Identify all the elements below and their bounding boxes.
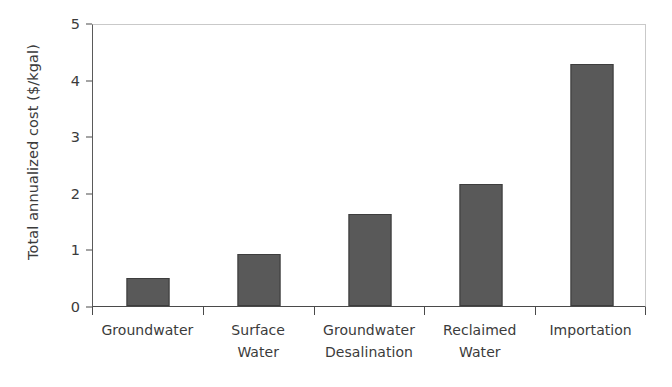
bar-slot [425, 25, 536, 306]
x-axis-label-line: Reclaimed [424, 319, 535, 341]
y-tick-label: 5 [71, 16, 80, 32]
y-tick-label: 4 [71, 73, 80, 89]
bar[interactable] [238, 254, 281, 306]
y-tick-label: 3 [71, 129, 80, 145]
x-tick-mark [535, 307, 536, 315]
bar[interactable] [127, 278, 170, 306]
x-tick-mark [645, 307, 646, 315]
x-tick-mark [203, 307, 204, 315]
x-axis-label-line: Groundwater [92, 319, 203, 341]
bar-slot [204, 25, 315, 306]
x-axis-label: GroundwaterDesalination [314, 319, 425, 363]
bars-layer [93, 25, 645, 306]
x-axis-ticks [92, 307, 646, 316]
bar-slot [93, 25, 204, 306]
x-axis-label: Groundwater [92, 319, 203, 341]
y-axis-ticks: 012345 [0, 24, 92, 307]
x-tick-mark [424, 307, 425, 315]
y-tick-label: 0 [71, 299, 80, 315]
x-axis-labels: GroundwaterSurfaceWaterGroundwaterDesali… [92, 319, 646, 379]
x-axis-label: Importation [535, 319, 646, 341]
bar[interactable] [570, 64, 613, 306]
x-tick-mark [314, 307, 315, 315]
x-axis-label-line: Desalination [314, 341, 425, 363]
bar[interactable] [348, 214, 391, 306]
x-axis-label-line: Groundwater [314, 319, 425, 341]
bar[interactable] [459, 184, 502, 306]
x-tick-mark [92, 307, 93, 315]
x-axis-label-line: Surface [203, 319, 314, 341]
y-tick-label: 1 [71, 242, 80, 258]
y-tick-label: 2 [71, 186, 80, 202]
x-axis-label-line: Water [424, 341, 535, 363]
bar-chart: Total annualized cost ($/kgal) 012345 Gr… [0, 0, 672, 387]
bar-slot [536, 25, 647, 306]
x-axis-label-line: Importation [535, 319, 646, 341]
x-axis-label: SurfaceWater [203, 319, 314, 363]
x-axis-label-line: Water [203, 341, 314, 363]
bar-slot [315, 25, 426, 306]
x-axis-label: ReclaimedWater [424, 319, 535, 363]
